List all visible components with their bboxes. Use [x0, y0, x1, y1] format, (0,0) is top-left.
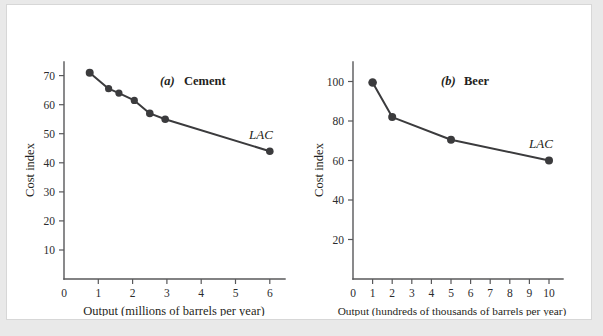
- cement-data-point-4: [146, 110, 154, 118]
- beer-x-tick-label-5: 5: [448, 287, 454, 299]
- beer-x-axis-title: Output (hundreds of thousands of barrels…: [338, 305, 567, 316]
- beer-x-ticks: [373, 279, 549, 284]
- cement-y-tick-label-1: 20: [44, 215, 56, 227]
- beer-x-tick-label-6: 6: [468, 287, 474, 299]
- cement-x-tick-labels: 0 1 2 3 4 5 6: [61, 287, 273, 299]
- cement-x-tick-label-3: 3: [164, 287, 170, 299]
- beer-y-tick-label-2: 60: [333, 155, 345, 167]
- cement-data-point-3: [131, 97, 138, 104]
- cement-lac-curve: [90, 73, 270, 152]
- chart-panel-cement: 10 20 30 40 50 60 70 0 1 2 3: [8, 0, 301, 316]
- cement-y-tick-label-2: 30: [44, 186, 56, 198]
- beer-x-tick-label-10: 10: [543, 287, 555, 299]
- beer-y-axis-title: Cost index: [312, 142, 326, 197]
- cement-lac-label: LAC: [248, 127, 273, 142]
- beer-lac-curve: [373, 83, 549, 161]
- cement-x-tick-label-1: 1: [95, 287, 101, 299]
- cement-y-ticks: [59, 76, 64, 250]
- cement-panel-caption: (a) Cement: [160, 74, 226, 88]
- cement-data-point-0: [86, 69, 94, 77]
- beer-data-point-2: [447, 136, 455, 144]
- cement-x-tick-label-4: 4: [198, 287, 204, 299]
- beer-lac-markers: [368, 78, 553, 164]
- beer-y-tick-label-3: 80: [333, 115, 345, 127]
- beer-x-tick-label-7: 7: [487, 287, 493, 299]
- cement-x-tick-label-6: 6: [267, 287, 273, 299]
- beer-panel-caption-paren: (b): [441, 74, 456, 88]
- cement-lac-markers: [86, 69, 274, 155]
- beer-chart-svg: 20 40 60 80 100 0 1: [295, 0, 595, 316]
- beer-x-tick-labels: 0 1 2 3 4 5 6 7 8 9 10: [350, 287, 555, 299]
- cement-x-axis-title: Output (millions of barrels per year): [83, 304, 265, 316]
- beer-x-tick-label-4: 4: [429, 287, 435, 299]
- cement-x-tick-label-0: 0: [61, 287, 67, 299]
- cement-data-point-1: [105, 85, 112, 92]
- cement-y-tick-label-5: 60: [44, 99, 56, 111]
- beer-x-tick-label-0: 0: [350, 287, 356, 299]
- beer-data-point-1: [388, 113, 396, 121]
- beer-data-point-0: [368, 78, 377, 87]
- beer-x-tick-label-8: 8: [507, 287, 513, 299]
- chart-panel-beer: 20 40 60 80 100 0 1: [295, 0, 588, 316]
- beer-x-tick-label-1: 1: [370, 287, 376, 299]
- cement-x-ticks: [98, 279, 269, 284]
- cement-y-tick-label-0: 10: [44, 244, 56, 256]
- beer-panel-caption-name: Beer: [464, 74, 489, 88]
- beer-x-tick-label-3: 3: [409, 287, 415, 299]
- figure-page: 10 20 30 40 50 60 70 0 1 2 3: [0, 0, 603, 336]
- beer-y-ticks: [348, 82, 353, 240]
- cement-data-point-2: [115, 90, 122, 97]
- cement-x-tick-label-5: 5: [233, 287, 239, 299]
- cement-chart-svg: 10 20 30 40 50 60 70 0 1 2 3: [8, 0, 301, 316]
- cement-y-tick-label-3: 40: [44, 157, 56, 169]
- beer-x-tick-label-2: 2: [389, 287, 395, 299]
- beer-x-tick-label-9: 9: [527, 287, 533, 299]
- cement-data-point-6: [266, 147, 274, 155]
- cement-panel-caption-name: Cement: [184, 74, 226, 88]
- cement-y-tick-label-6: 70: [44, 70, 56, 82]
- beer-y-tick-label-4: 100: [327, 76, 345, 88]
- beer-data-point-3: [545, 157, 553, 165]
- beer-y-tick-label-1: 40: [333, 194, 345, 206]
- beer-y-tick-label-0: 20: [333, 234, 345, 246]
- cement-y-axis-title: Cost index: [23, 142, 37, 197]
- cement-x-tick-label-2: 2: [130, 287, 136, 299]
- beer-panel-caption: (b) Beer: [441, 74, 489, 88]
- cement-y-tick-labels: 10 20 30 40 50 60 70: [44, 70, 56, 256]
- cement-data-point-5: [161, 115, 169, 123]
- cement-y-tick-label-4: 50: [44, 128, 56, 140]
- beer-y-tick-labels: 20 40 60 80 100: [327, 76, 345, 246]
- cement-panel-caption-paren: (a): [160, 74, 175, 88]
- beer-lac-label: LAC: [528, 136, 553, 151]
